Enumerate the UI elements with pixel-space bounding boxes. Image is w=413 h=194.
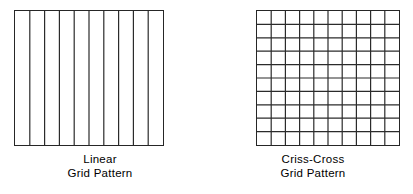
crisscross-caption-line-1: Criss-Cross: [213, 153, 413, 167]
linear-caption-line-2: Grid Pattern: [0, 167, 200, 181]
crisscross-grid-diagram: [256, 10, 400, 146]
crisscross-caption: Criss-Cross Grid Pattern: [213, 153, 413, 180]
linear-caption: Linear Grid Pattern: [0, 153, 200, 180]
crisscross-caption-line-2: Grid Pattern: [213, 167, 413, 181]
grid-pattern-figure: Linear Grid Pattern Criss-Cross Grid Pat…: [0, 0, 413, 194]
linear-grid-diagram: [14, 10, 164, 146]
crisscross-grid-lines: [257, 11, 399, 145]
panel-linear: Linear Grid Pattern: [0, 0, 200, 194]
panel-crisscross: Criss-Cross Grid Pattern: [213, 0, 413, 194]
linear-caption-line-1: Linear: [0, 153, 200, 167]
linear-grid-lines: [15, 11, 163, 145]
